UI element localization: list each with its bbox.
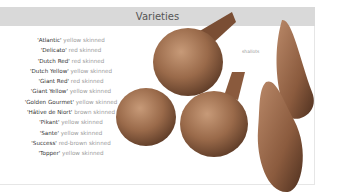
onion-top	[153, 12, 236, 96]
onion-left	[116, 88, 176, 146]
onions-illustration	[0, 0, 353, 195]
shallots-caption: shallots	[242, 49, 259, 54]
